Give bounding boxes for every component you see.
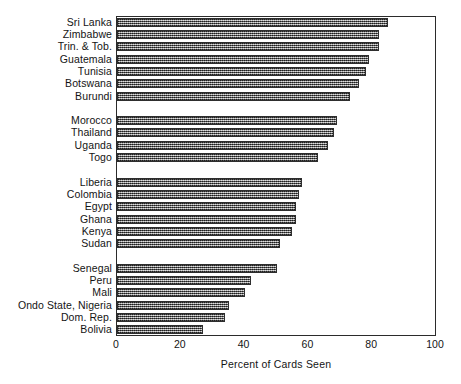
bar xyxy=(117,30,379,39)
x-axis-tick-label: 20 xyxy=(174,338,186,350)
category-label: Tunisia xyxy=(0,66,112,77)
bar xyxy=(117,92,350,101)
category-label: Sudan xyxy=(0,238,112,249)
category-label: Trin. & Tob. xyxy=(0,41,112,52)
bar xyxy=(117,239,280,248)
bar xyxy=(117,128,334,137)
x-axis-tick-label: 100 xyxy=(426,338,444,350)
category-label: Senegal xyxy=(0,263,112,274)
bar xyxy=(117,116,337,125)
bar xyxy=(117,42,379,51)
x-axis-tick-label: 80 xyxy=(365,338,377,350)
x-axis-tick-labels: 020406080100 xyxy=(0,338,461,352)
category-label: Zimbabwe xyxy=(0,29,112,40)
category-label: Colombia xyxy=(0,189,112,200)
category-label: Thailand xyxy=(0,127,112,138)
bars-layer xyxy=(117,16,436,336)
category-label: Dom. Rep. xyxy=(0,312,112,323)
bar-chart: Sri LankaZimbabweTrin. & Tob.GuatemalaTu… xyxy=(0,0,461,384)
bar xyxy=(117,67,366,76)
bar xyxy=(117,141,328,150)
category-label: Botswana xyxy=(0,78,112,89)
x-axis-tick-label: 40 xyxy=(238,338,250,350)
category-label: Sri Lanka xyxy=(0,17,112,28)
category-label: Liberia xyxy=(0,177,112,188)
x-axis-tick-label: 0 xyxy=(113,338,119,350)
category-label: Egypt xyxy=(0,201,112,212)
bar xyxy=(117,79,359,88)
category-label: Guatemala xyxy=(0,54,112,65)
bar xyxy=(117,178,302,187)
bar xyxy=(117,55,369,64)
category-label: Mali xyxy=(0,287,112,298)
category-label: Bolivia xyxy=(0,324,112,335)
category-label: Uganda xyxy=(0,140,112,151)
bar xyxy=(117,18,388,27)
bar xyxy=(117,288,245,297)
category-label: Ondo State, Nigeria xyxy=(0,300,112,311)
category-label: Ghana xyxy=(0,214,112,225)
category-axis-labels: Sri LankaZimbabweTrin. & Tob.GuatemalaTu… xyxy=(0,16,112,336)
category-label: Togo xyxy=(0,152,112,163)
bar xyxy=(117,227,292,236)
x-axis-tick-label: 60 xyxy=(302,338,314,350)
bar xyxy=(117,276,251,285)
category-label: Burundi xyxy=(0,91,112,102)
bar xyxy=(117,301,229,310)
category-label: Kenya xyxy=(0,226,112,237)
bar xyxy=(117,202,296,211)
bar xyxy=(117,215,296,224)
bar xyxy=(117,313,225,322)
bar xyxy=(117,153,318,162)
bar xyxy=(117,325,203,334)
x-axis-title: Percent of Cards Seen xyxy=(116,358,436,370)
category-label: Morocco xyxy=(0,115,112,126)
bar xyxy=(117,264,277,273)
category-label: Peru xyxy=(0,275,112,286)
bar xyxy=(117,190,299,199)
